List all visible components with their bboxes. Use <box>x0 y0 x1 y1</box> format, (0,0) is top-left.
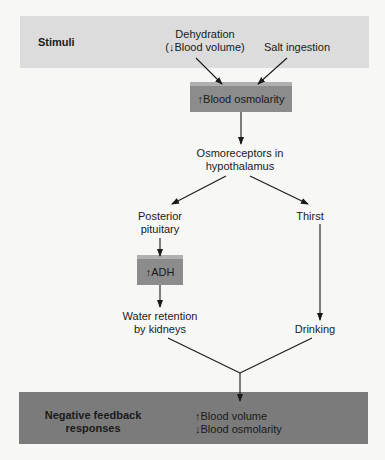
flow-arrows <box>0 0 385 460</box>
